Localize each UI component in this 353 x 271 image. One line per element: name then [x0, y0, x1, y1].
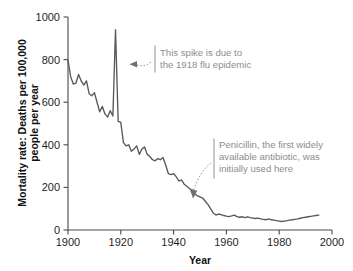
penicillin-annotation-line-2: available antibiotic, was [219, 151, 320, 162]
y-tick-label: 800 [42, 54, 60, 66]
x-tick-label: 1900 [56, 236, 80, 248]
y-tick-label: 400 [42, 139, 60, 151]
x-tick-label: 1960 [214, 236, 238, 248]
penicillin-annotation-line-3: initially used here [219, 163, 293, 174]
y-tick-label: 600 [42, 96, 60, 108]
mortality-rate-chart: 0 200 400 600 800 1000 1900 1920 1940 19… [0, 0, 353, 271]
flu-annotation-line-2: the 1918 flu epidemic [160, 59, 251, 70]
x-tick-label: 2000 [320, 236, 344, 248]
y-tick-label: 0 [54, 224, 60, 236]
y-tick-label: 200 [42, 181, 60, 193]
x-axis-title: Year [189, 254, 211, 266]
y-axis-title-line-1: Mortality rate: Deaths per 100,000 [16, 39, 28, 207]
penicillin-annotation-line-1: Penicillin, the first widely [219, 139, 323, 150]
y-axis-title-line-2: people per year [28, 84, 40, 162]
flu-annotation-line-1: This spike is due to [160, 47, 242, 58]
x-tick-label: 1920 [109, 236, 133, 248]
x-tick-label: 1980 [267, 236, 291, 248]
x-tick-label: 1940 [161, 236, 185, 248]
y-tick-label: 1000 [36, 11, 60, 23]
